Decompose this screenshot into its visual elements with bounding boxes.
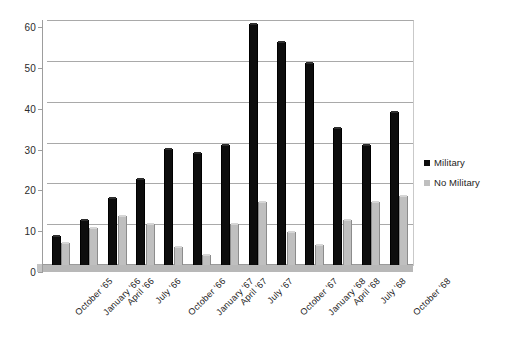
bar-no-military[interactable]: [287, 232, 296, 265]
bar-group: [390, 20, 409, 265]
bar-top-cap: [363, 144, 370, 146]
bar-top-cap: [316, 244, 323, 246]
legend-item[interactable]: Military: [424, 157, 504, 168]
no-military-swatch-icon: [424, 180, 430, 186]
bar-no-military[interactable]: [89, 228, 98, 265]
bar-top-cap: [62, 242, 69, 244]
bar-no-military[interactable]: [146, 224, 155, 265]
bar-top-cap: [250, 23, 257, 25]
x-axis-label: July '66: [153, 276, 183, 306]
bar-no-military[interactable]: [202, 255, 211, 265]
bar-military[interactable]: [136, 179, 145, 265]
bar-top-cap: [203, 254, 210, 256]
y-axis-label: 30: [24, 144, 36, 155]
bar-top-cap: [109, 197, 116, 199]
bar-military[interactable]: [221, 145, 230, 265]
y-axis-label: 40: [24, 103, 36, 114]
x-axis-label: July '67: [265, 276, 295, 306]
x-axis: October '65January '66April '66July '66O…: [42, 276, 413, 344]
legend-item-label: No Military: [434, 177, 480, 188]
bar-group: [52, 20, 71, 265]
plot-area: 0102030405060: [42, 20, 413, 272]
y-tick-30: [38, 150, 43, 151]
bar-military[interactable]: [249, 24, 258, 265]
y-axis-label: 20: [24, 185, 36, 196]
bar-top-cap: [400, 195, 407, 197]
bar-top-cap: [334, 127, 341, 129]
bar-top-cap: [306, 62, 313, 64]
y-axis-label: 0: [30, 267, 36, 278]
y-tick-10: [38, 231, 43, 232]
bar-no-military[interactable]: [343, 220, 352, 265]
bar-top-cap: [165, 148, 172, 150]
y-axis-top-connector: [42, 20, 49, 26]
bar-group: [277, 20, 296, 265]
bar-military[interactable]: [164, 149, 173, 265]
bar-military[interactable]: [333, 128, 342, 265]
y-tick-20: [38, 190, 43, 191]
bar-group: [362, 20, 381, 265]
y-axis-label: 10: [24, 226, 36, 237]
y-tick-50: [38, 68, 43, 69]
military-swatch-icon: [424, 160, 430, 166]
y-axis-line: [42, 25, 43, 272]
bar-no-military[interactable]: [258, 202, 267, 265]
bar-top-cap: [222, 144, 229, 146]
bar-military[interactable]: [108, 198, 117, 265]
bar-military[interactable]: [52, 236, 61, 265]
bar-no-military[interactable]: [174, 247, 183, 265]
bar-group: [221, 20, 240, 265]
plot-floor: [42, 264, 413, 272]
bar-military[interactable]: [193, 153, 202, 265]
bar-top-cap: [278, 41, 285, 43]
bar-top-cap: [344, 219, 351, 221]
bar-group: [249, 20, 268, 265]
bar-military[interactable]: [305, 63, 314, 265]
bar-top-cap: [137, 178, 144, 180]
bar-group: [333, 20, 352, 265]
bar-top-cap: [53, 235, 60, 237]
y-tick-60: [38, 27, 43, 28]
bar-top-cap: [231, 223, 238, 225]
legend: MilitaryNo Military: [424, 157, 504, 197]
bar-no-military[interactable]: [118, 216, 127, 265]
bar-top-cap: [147, 223, 154, 225]
bar-no-military[interactable]: [230, 224, 239, 265]
bar-no-military[interactable]: [399, 196, 408, 265]
bar-chart: 0102030405060 October '65January '66Apri…: [0, 0, 506, 344]
legend-item-label: Military: [434, 157, 465, 168]
bar-top-cap: [175, 246, 182, 248]
bar-top-cap: [372, 201, 379, 203]
bar-no-military[interactable]: [315, 245, 324, 265]
bar-top-cap: [119, 215, 126, 217]
bar-group: [164, 20, 183, 265]
bar-group: [108, 20, 127, 265]
bar-group: [136, 20, 155, 265]
bar-group: [193, 20, 212, 265]
y-tick-0: [38, 272, 43, 273]
y-axis-label: 50: [24, 62, 36, 73]
y-axis-label: 60: [24, 22, 36, 33]
bar-no-military[interactable]: [371, 202, 380, 265]
bar-top-cap: [391, 111, 398, 113]
bar-top-cap: [90, 227, 97, 229]
bar-top-cap: [259, 201, 266, 203]
bar-top-cap: [288, 231, 295, 233]
bar-military[interactable]: [362, 145, 371, 265]
bar-group: [305, 20, 324, 265]
x-axis-label: October '68: [411, 276, 452, 317]
y-tick-40: [38, 109, 43, 110]
bar-military[interactable]: [80, 220, 89, 265]
legend-item[interactable]: No Military: [424, 177, 504, 188]
bar-group: [80, 20, 99, 265]
bar-no-military[interactable]: [61, 243, 70, 265]
bar-top-cap: [194, 152, 201, 154]
x-axis-label: July '68: [378, 276, 408, 306]
bar-military[interactable]: [277, 42, 286, 265]
bar-military[interactable]: [390, 112, 399, 265]
bar-top-cap: [81, 219, 88, 221]
